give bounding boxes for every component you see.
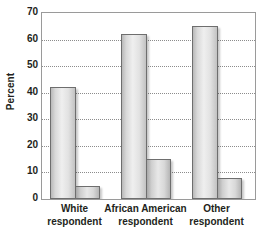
x-axis-category-labels: WhiterespondentAfrican Americanresponden…: [41, 203, 256, 237]
category-label-line: Other: [171, 203, 262, 216]
bar: [146, 159, 171, 199]
bar: [121, 34, 147, 199]
bar-chart: Percent 010203040506070 WhiterespondentA…: [0, 0, 262, 239]
x-axis-category-label: Otherrespondent: [171, 203, 262, 228]
y-axis-tick-label: 0: [12, 193, 38, 203]
gridline: [42, 40, 255, 41]
bar: [217, 178, 242, 199]
y-axis-tick-label: 40: [12, 87, 38, 97]
y-axis-tick-label: 10: [12, 166, 38, 176]
y-axis-tick-label: 60: [12, 34, 38, 44]
y-axis-tick-label: 20: [12, 140, 38, 150]
y-axis-tick-label: 50: [12, 60, 38, 70]
y-axis-tick-label: 70: [12, 7, 38, 17]
gridline: [42, 66, 255, 67]
category-label-line: respondent: [171, 216, 262, 229]
plot-area: [41, 12, 256, 200]
bar: [192, 26, 218, 199]
bar: [50, 87, 76, 199]
bar: [75, 186, 100, 199]
y-axis-tick-label: 30: [12, 113, 38, 123]
